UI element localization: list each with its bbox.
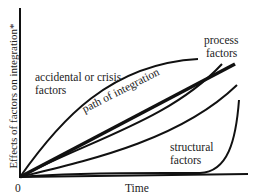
accidental-label-line1: accidental or crisis <box>35 71 121 83</box>
integration-diagram: Effects of factors on integration* 0 Tim… <box>0 0 253 196</box>
origin-label: 0 <box>15 182 21 194</box>
structural-label-line2: factors <box>170 154 201 166</box>
process-label-line1: process <box>204 34 239 46</box>
process-label-line2: factors <box>206 47 237 59</box>
curve-intermediate <box>20 85 237 177</box>
x-axis-label: Time <box>125 182 149 194</box>
structural-label-line1: structural <box>170 141 213 153</box>
accidental-label-line2: factors <box>35 84 66 96</box>
curve-structural-factors <box>20 100 239 177</box>
diagram-svg <box>0 0 253 196</box>
y-axis-label: Effects of factors on integration* <box>7 16 19 176</box>
